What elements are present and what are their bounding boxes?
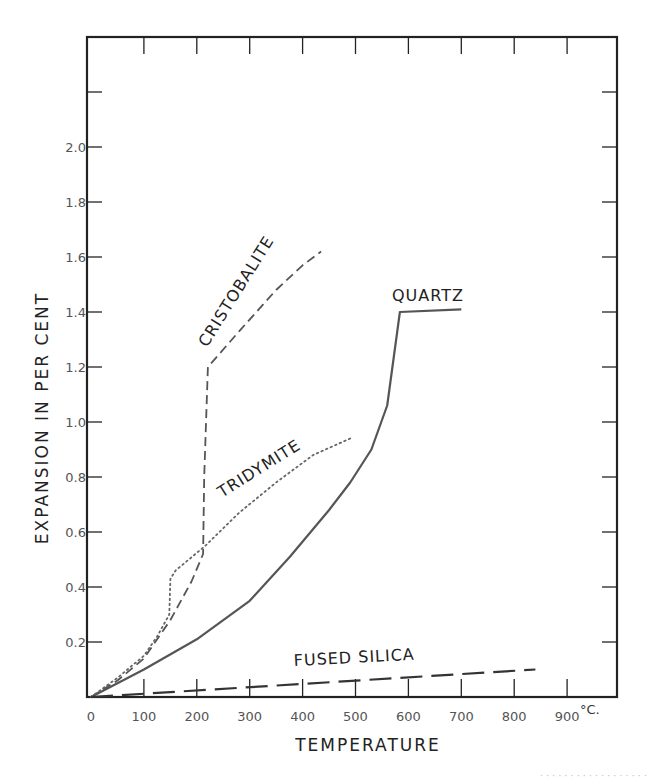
plot-frame (87, 37, 617, 697)
series-label-fused-silica: FUSED SILICA (293, 645, 415, 670)
plot-border (87, 37, 617, 697)
y-tick-label: 1.4 (65, 305, 86, 320)
x-axis-title: TEMPERATURE (294, 735, 441, 755)
y-tick-label: 0.8 (65, 470, 86, 485)
y-tick-label: 1.8 (65, 195, 86, 210)
x-tick-label: 400 (290, 709, 315, 724)
x-unit-label: °C. (580, 702, 600, 717)
series-fused-silica-line (91, 670, 535, 698)
series-lines (91, 252, 535, 698)
y-tick-label: 2.0 (65, 140, 86, 155)
x-tick-label: 600 (396, 709, 421, 724)
thermal-expansion-chart: 01002003004005006007008009000.20.40.60.8… (0, 0, 647, 782)
y-tick-label: 1.0 (65, 415, 86, 430)
axis-ticks: 01002003004005006007008009000.20.40.60.8… (65, 37, 617, 724)
series-label-cristobalite: CRISTOBALITE (194, 232, 277, 350)
x-tick-label: 800 (502, 709, 527, 724)
x-tick-label: 200 (184, 709, 209, 724)
series-cristobalite-line (91, 252, 321, 698)
x-tick-label: 900 (555, 709, 580, 724)
series-label-tridymite: TRIDYMITE (213, 435, 304, 502)
series-label-quartz: QUARTZ (392, 286, 464, 305)
y-tick-label: 1.6 (65, 250, 86, 265)
y-tick-label: 0.4 (65, 580, 86, 595)
y-tick-label: 0.6 (65, 525, 86, 540)
x-tick-label: 500 (343, 709, 368, 724)
y-tick-label: 1.2 (65, 360, 86, 375)
series-quartz-line (91, 309, 461, 697)
figure-caption-fragment: · · · · · · · · · · · · · · · · · · (0, 770, 647, 782)
y-axis-title: EXPANSION IN PER CENT (32, 292, 52, 544)
y-tick-label: 0.2 (65, 635, 86, 650)
x-tick-label: 700 (449, 709, 474, 724)
x-tick-label: 300 (237, 709, 262, 724)
x-tick-label: 100 (131, 709, 156, 724)
x-tick-label: 0 (87, 709, 95, 724)
